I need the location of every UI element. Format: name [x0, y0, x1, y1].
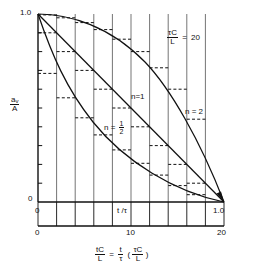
x-lower-tick-20: 20 [217, 229, 226, 237]
curve-label-n-half: n = 1 2 [104, 120, 124, 136]
curve-label-n-half-den: 2 [119, 127, 125, 135]
x-axis-label-rhs2-den: L [132, 254, 143, 263]
x-axis-label: tC L = t τ ( τC L ) [95, 246, 148, 264]
y-axis-label-subscript: v [15, 98, 18, 104]
x-axis-label-rhs1-num: t [118, 246, 123, 254]
parameter-equals: = [182, 34, 187, 42]
x-axis-label-lhs-den: L [95, 254, 105, 263]
curve-label-n-half-prefix: n = [104, 124, 115, 132]
x-axis-label-paren-close: ) [146, 251, 149, 259]
x-axis-label-paren-open: ( [128, 251, 131, 259]
y-axis-label-denominator: A [10, 104, 19, 113]
y-tick-bottom: 0 [28, 195, 32, 203]
curve-label-n-one: n=1 [131, 93, 145, 101]
x-axis-label-equals: = [109, 251, 114, 259]
figure-root: 1.0 0 av A τC L = 20 n = 1 2 n=1 n = 2 0… [0, 0, 253, 272]
parameter-denominator: L [167, 37, 178, 46]
x-axis-label-lhs-num: tC [95, 246, 105, 254]
curve-label-n-half-num: 1 [119, 120, 125, 127]
curve-label-n-two: n = 2 [185, 108, 203, 116]
x-axis-label-rhs2-num: τC [132, 246, 143, 254]
x-lower-tick-0: 0 [35, 229, 39, 237]
parameter-numerator: τC [167, 29, 178, 37]
step-lines-n-one [38, 33, 205, 183]
parameter-annotation: τC L = 20 [167, 29, 200, 47]
x-lower-tick-10: 10 [126, 229, 135, 237]
x-axis-band-ticks [38, 202, 224, 226]
x-upper-tick-left: 0 [35, 207, 39, 215]
x-axis-label-rhs1-den: τ [118, 254, 123, 263]
x-upper-tick-right: 1.0 [213, 207, 224, 215]
parameter-value: 20 [191, 34, 200, 42]
y-axis-label: av A [10, 96, 19, 114]
y-tick-top: 1.0 [20, 9, 31, 17]
x-axis-upper-label: t /τ [117, 207, 127, 215]
